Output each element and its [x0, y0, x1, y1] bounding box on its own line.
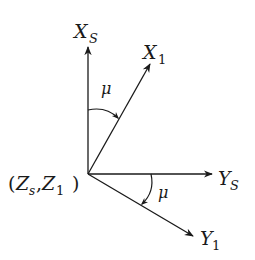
- label-x1: X 1: [141, 41, 166, 67]
- angle-label-lower: μ: [158, 183, 168, 202]
- origin-z2-sub: 1: [56, 183, 64, 198]
- label-xs-name: X: [72, 20, 89, 42]
- origin-open-paren: (: [8, 172, 15, 194]
- angle-label-upper: μ: [101, 79, 111, 98]
- label-x1-name: X: [141, 41, 158, 63]
- rotation-diagram: X S X 1 Y S Y 1 μ μ ( Z s , Z 1 ): [0, 0, 255, 260]
- axis-x1: [88, 64, 150, 174]
- axis-y1: [88, 174, 193, 236]
- angle-arc-upper: [88, 109, 118, 118]
- label-ys: Y S: [218, 167, 239, 193]
- label-y1: Y 1: [200, 227, 220, 253]
- origin-close-paren: ): [72, 172, 79, 194]
- label-x1-sub: 1: [158, 52, 166, 67]
- angle-arc-lower: [142, 174, 152, 204]
- origin-z1-sub: s: [29, 184, 35, 198]
- origin-z2: Z: [41, 172, 56, 194]
- origin-z1: Z: [15, 172, 30, 194]
- label-y1-sub: 1: [212, 238, 220, 253]
- origin-label: ( Z s , Z 1 ): [8, 172, 79, 198]
- label-xs-sub: S: [89, 31, 98, 46]
- label-xs: X S: [72, 20, 98, 46]
- label-ys-sub: S: [230, 178, 239, 193]
